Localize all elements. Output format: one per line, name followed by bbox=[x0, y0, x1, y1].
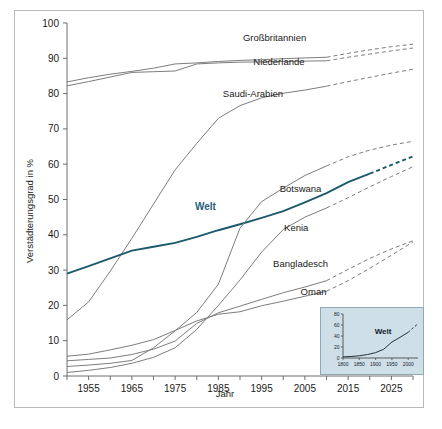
y-tick-label: 50 bbox=[48, 194, 60, 205]
y-tick-label: 20 bbox=[48, 300, 60, 311]
y-tick-label: 40 bbox=[48, 229, 60, 240]
series-projection-bangladesch bbox=[327, 241, 414, 281]
series-projection-saudi-arabien bbox=[327, 69, 414, 86]
inset-y-tick-label: 80 bbox=[334, 311, 340, 317]
x-tick-label: 2025 bbox=[380, 383, 403, 394]
inset-x-tick-label: 1950 bbox=[386, 361, 397, 367]
inset-y-tick-label: 20 bbox=[334, 344, 340, 350]
y-tick-label: 80 bbox=[48, 88, 60, 99]
series-label-saudi-arabien: Saudi-Arabien bbox=[223, 88, 283, 99]
y-axis-title: Verstädterungsgrad in % bbox=[24, 158, 35, 263]
inset-series-projection bbox=[408, 324, 418, 333]
inset-x-tick-label: 2000 bbox=[403, 361, 414, 367]
inset-x-tick-label: 1900 bbox=[370, 361, 381, 367]
inset-x-tick-label: 1850 bbox=[354, 361, 365, 367]
inset-y-tick-label: 60 bbox=[334, 322, 340, 328]
y-tick-label: 60 bbox=[48, 159, 60, 170]
y-tick-label: 10 bbox=[48, 335, 60, 346]
inset-axes-group: 02040608018001850190019502000 bbox=[334, 311, 418, 367]
series-label-großbritannien: Großbritannien bbox=[243, 32, 306, 43]
series-projection-kenia bbox=[327, 242, 414, 291]
y-tick-label: 0 bbox=[53, 371, 59, 382]
inset-y-tick-label: 0 bbox=[337, 355, 340, 361]
inset-y-tick-label: 40 bbox=[334, 333, 340, 339]
inset-chart: 02040608018001850190019502000 Welt bbox=[320, 307, 424, 375]
x-tick-label: 1975 bbox=[164, 383, 187, 394]
x-tick-label: 1965 bbox=[121, 383, 144, 394]
series-label-kenia: Kenia bbox=[284, 222, 309, 233]
chart-frame: 0102030405060708090100195519651975198519… bbox=[14, 10, 424, 408]
y-tick-label: 30 bbox=[48, 265, 60, 276]
y-tick-label: 90 bbox=[48, 53, 60, 64]
inset-x-tick-label: 1800 bbox=[337, 361, 348, 367]
series-label-botswana: Botswana bbox=[280, 183, 322, 194]
figure-container: 0102030405060708090100195519651975198519… bbox=[0, 0, 442, 429]
series-projection-welt bbox=[370, 156, 413, 173]
series-label-oman: Oman bbox=[301, 286, 327, 297]
series-label-niederlande: Niederlande bbox=[253, 56, 304, 67]
series-label-welt: Welt bbox=[195, 201, 217, 212]
y-tick-label: 100 bbox=[42, 18, 59, 29]
x-tick-label: 2015 bbox=[337, 383, 360, 394]
series-projection-großbritannien bbox=[327, 44, 414, 57]
x-tick-label: 2005 bbox=[294, 383, 317, 394]
x-axis-title: Jahr bbox=[216, 388, 234, 399]
x-tick-label: 1995 bbox=[251, 383, 274, 394]
inset-series-label: Welt bbox=[375, 327, 392, 336]
series-labels-group: GroßbritannienNiederlandeSaudi-ArabienWe… bbox=[195, 32, 328, 297]
series-label-bangladesch: Bangladesch bbox=[273, 258, 328, 269]
x-tick-label: 1955 bbox=[78, 383, 101, 394]
inset-plot: 02040608018001850190019502000 Welt bbox=[321, 308, 423, 374]
series-projection-botswana bbox=[327, 141, 414, 166]
inset-series-line bbox=[343, 332, 408, 357]
y-tick-label: 70 bbox=[48, 123, 60, 134]
